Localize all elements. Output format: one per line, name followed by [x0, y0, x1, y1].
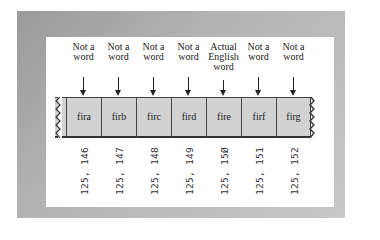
down-arrow-icon — [101, 77, 136, 97]
torn-edge-right-icon — [305, 97, 315, 138]
column-heading: Not a word — [101, 42, 136, 62]
down-arrow-icon — [171, 77, 206, 97]
tape-cell: fira — [66, 97, 101, 138]
column-heading: Not a word — [136, 42, 171, 62]
address-label: 125, 147 — [101, 140, 136, 202]
address-label: 125, 149 — [171, 140, 206, 202]
tape-cell: firc — [136, 97, 171, 138]
address-text: 125, 149 — [183, 147, 194, 195]
address-text: 125, 147 — [113, 147, 124, 195]
down-arrow-icon — [66, 77, 101, 97]
down-arrow-icon — [276, 77, 311, 97]
down-arrow-icon — [136, 77, 171, 97]
tape-cell-highlight: fire — [206, 97, 241, 138]
address-label: 125, 15Ø — [206, 140, 241, 202]
torn-edge-left-icon — [52, 97, 62, 138]
heading-line: word — [206, 62, 241, 72]
address-label: 125, 148 — [136, 140, 171, 202]
column-heading-highlight: Actual English word — [206, 42, 241, 72]
address-label: 125, 152 — [276, 140, 311, 202]
column-heading: Not a word — [241, 42, 276, 62]
address-text: 125, 151 — [253, 147, 264, 195]
memory-tape: fira firb firc fird fire firf firg — [55, 97, 313, 138]
address-label: 125, 146 — [66, 140, 101, 202]
down-arrow-icon — [241, 77, 276, 97]
column-heading: Not a word — [276, 42, 311, 62]
heading-line: word — [276, 52, 311, 62]
heading-line: word — [66, 52, 101, 62]
heading-line: word — [101, 52, 136, 62]
address-label: 125, 151 — [241, 140, 276, 202]
address-text: 125, 152 — [288, 147, 299, 195]
tape-cell: fird — [171, 97, 206, 138]
down-arrow-icon — [206, 77, 241, 97]
address-text: 125, 15Ø — [218, 147, 229, 195]
heading-line: word — [171, 52, 206, 62]
address-text: 125, 148 — [148, 147, 159, 195]
tape-cell: firf — [241, 97, 276, 138]
address-text: 125, 146 — [78, 147, 89, 195]
heading-line: word — [136, 52, 171, 62]
column-heading: Not a word — [66, 42, 101, 62]
heading-line: word — [241, 52, 276, 62]
column-heading: Not a word — [171, 42, 206, 62]
tape-cell: firb — [101, 97, 136, 138]
